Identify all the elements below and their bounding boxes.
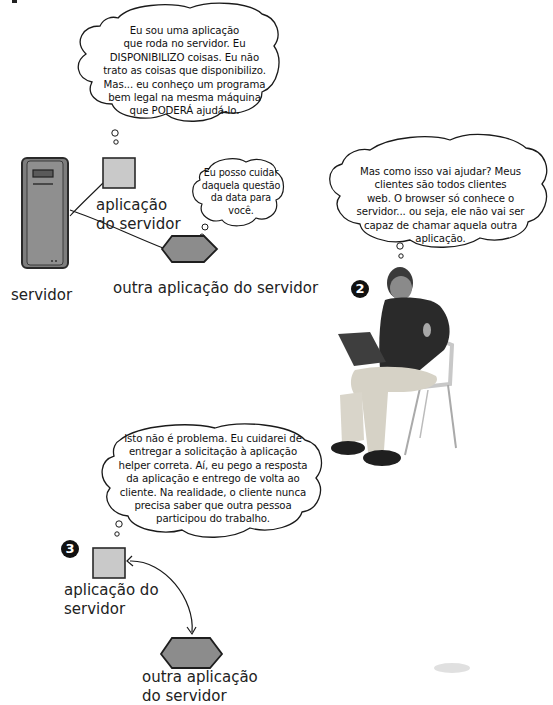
- server-app-box-icon-scene3: [93, 548, 125, 578]
- page-corner-mark: [12, 0, 17, 3]
- server-app-label: aplicação do servidor: [96, 196, 181, 234]
- label-line: aplicação: [96, 196, 181, 215]
- bubble-line: web. O browser só conhece o: [343, 192, 538, 205]
- bubble-line: que roda no servidor. Eu: [92, 37, 277, 50]
- bubble-line: aplicação.: [343, 232, 538, 245]
- bubble-line: precisa saber que outra pessoa: [108, 499, 318, 512]
- bubble-line: da aplicação e entrego de volta ao: [108, 472, 318, 485]
- step-badge-3: 3: [61, 540, 79, 558]
- bubble-line: capaz de chamar aquela outra: [343, 219, 538, 232]
- bubble-line: entregar a solicitação à aplicação: [108, 445, 318, 458]
- server-app-label-scene3: aplicação do servidor: [64, 581, 159, 619]
- other-app-label-scene3: outra aplicação do servidor: [142, 668, 258, 705]
- label-line: aplicação do: [64, 581, 159, 600]
- bubble-line: Eu posso cuidar: [196, 167, 286, 180]
- other-app-label: outra aplicação do servidor: [113, 279, 318, 298]
- bubble-line: Mas como isso vai ajudar? Meus: [343, 165, 538, 178]
- bubble-text-developer: Mas como isso vai ajudar? Meus clientes …: [343, 165, 538, 245]
- bubble-text-app: Eu sou uma aplicação que roda no servido…: [92, 24, 277, 118]
- bubble-line: servidor... ou seja, ele não vai ser: [343, 205, 538, 218]
- bubble-line: trato as coisas que disponibilizo.: [92, 64, 277, 77]
- other-app-hexagon-icon-scene3: [161, 638, 222, 668]
- bubble-text-app-scene3: Isto não é problema. Eu cuidarei de entr…: [108, 432, 318, 526]
- bubble-line: Mas... eu conheço um programa: [92, 78, 277, 91]
- label-line: servidor: [64, 600, 159, 619]
- bubble-line: Eu sou uma aplicação: [92, 24, 277, 37]
- smudge-decoration: [434, 663, 470, 673]
- other-app-hexagon-icon: [162, 236, 217, 262]
- bubble-line: cliente. Na realidade, o cliente nunca: [108, 486, 318, 499]
- server-app-box-icon: [103, 158, 135, 188]
- label-line: do servidor: [96, 215, 181, 234]
- bubble-line: da data para: [196, 192, 286, 205]
- step-badge-2: 2: [351, 280, 369, 298]
- bubble-line: daquela questão: [196, 180, 286, 193]
- bubble-line: participou do trabalho.: [108, 512, 318, 525]
- bubble-text-other-app: Eu posso cuidar daquela questão da data …: [196, 167, 286, 217]
- label-line: outra aplicação: [142, 668, 258, 687]
- developer-with-laptop-figure: [331, 267, 456, 466]
- bubble-line: DISPONIBILIZO coisas. Eu não: [92, 51, 277, 64]
- bubble-line: clientes são todos clientes: [343, 178, 538, 191]
- server-label: servidor: [11, 286, 72, 305]
- bubble-line: helper correta. Aí, eu pego a resposta: [108, 459, 318, 472]
- bubble-line: você.: [196, 205, 286, 218]
- label-line: do servidor: [142, 687, 258, 705]
- server-tower-icon: [22, 158, 68, 268]
- bubble-line: que PODERÁ ajudá-lo.: [92, 104, 277, 117]
- bubble-line: Isto não é problema. Eu cuidarei de: [108, 432, 318, 445]
- bubble-line: bem legal na mesma máquina: [92, 91, 277, 104]
